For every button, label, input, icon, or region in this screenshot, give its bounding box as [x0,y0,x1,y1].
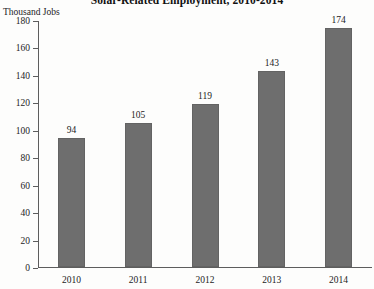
y-axis-tick [33,241,38,242]
y-axis-tick-label: 140 [16,71,30,81]
bar [192,104,219,267]
y-axis-tick [33,268,38,269]
x-axis-line [38,267,372,268]
bar-value-label: 105 [131,110,145,120]
y-axis-tick [33,158,38,159]
bar-value-label: 174 [331,15,345,25]
x-axis-tick-label: 2012 [196,275,215,285]
y-axis-tick-label: 20 [21,236,31,246]
x-axis-tick-label: 2010 [62,275,81,285]
y-axis-tick [33,103,38,104]
y-axis-tick-label: 120 [16,98,30,108]
y-axis-tick [33,21,38,22]
chart-title: Solar-Related Employment, 2010-2014 [0,0,374,6]
plot-area: 180160140120100806040200 942010105201111… [38,21,372,268]
x-axis-tick-label: 2013 [262,275,281,285]
y-axis-tick [33,186,38,187]
y-axis-tick-label: 40 [21,208,31,218]
chart-page: Solar-Related Employment, 2010-2014 Thou… [0,0,374,289]
bar-value-label: 143 [265,58,279,68]
bar-value-label: 119 [198,91,212,101]
bar [258,71,285,267]
bar [125,123,152,267]
y-axis-tick [33,76,38,77]
y-axis-tick-label: 60 [21,181,31,191]
y-axis-tick [33,131,38,132]
bar-value-label: 94 [67,125,77,135]
y-axis-line [38,21,39,268]
y-axis-tick [33,213,38,214]
y-axis-tick-label: 0 [25,263,30,273]
x-axis-tick-label: 2011 [129,275,148,285]
y-axis-tick [33,48,38,49]
x-axis-tick-label: 2014 [329,275,348,285]
y-axis-tick-label: 100 [16,126,30,136]
y-axis-tick-label: 180 [16,16,30,26]
y-axis-tick-label: 160 [16,43,30,53]
bar [325,28,352,267]
y-axis-unit-caption: Thousand Jobs [3,7,60,17]
bar [58,138,85,267]
y-axis-tick-label: 80 [21,153,31,163]
